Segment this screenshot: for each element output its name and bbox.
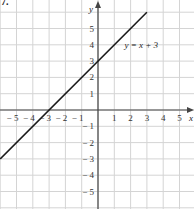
y-tick-label: − 3 [82,154,94,164]
x-tick-label: − 4 [23,113,35,123]
x-tick-label: − 5 [7,113,19,123]
plot-line [0,12,147,159]
y-tick-label: − 1 [82,121,94,131]
x-tick-label: − 2 [55,113,67,123]
axes [0,1,194,209]
y-tick-label: − 2 [82,138,94,148]
y-tick-label: − 4 [82,170,94,180]
x-tick-label: 2 [128,113,133,123]
y-axis-label: y [88,4,93,14]
y-tick-label: 2 [90,72,95,82]
y-axis-arrow-icon [95,1,101,8]
x-tick-label: 5 [177,113,182,123]
y-tick-label: 5 [90,24,95,34]
x-tick-label: 4 [161,113,166,123]
x-axis-label: x [188,113,193,123]
y-tick-label: 4 [90,40,95,50]
x-tick-label: 3 [145,113,150,123]
x-tick-label: 1 [112,113,117,123]
equation-label: y = x + 3 [123,40,158,50]
grid [0,0,194,209]
line-graph: − 5− 4− 3− 2− 11234554321− 1− 2− 3− 4− 5… [0,0,194,209]
y-tick-label: 1 [90,89,95,99]
y-tick-label: − 5 [82,187,94,197]
series-line [0,12,147,159]
